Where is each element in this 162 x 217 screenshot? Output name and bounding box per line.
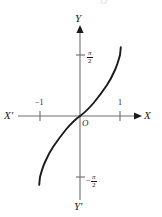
arcsin-graph-figure: O X X′ Y Y′ O −1 1 π 2 − π 2 bbox=[0, 0, 162, 217]
partial-glyph-top: O bbox=[100, 0, 107, 6]
y-negative-axis-label: Y′ bbox=[74, 201, 83, 212]
neg-half-pi-group: − π 2 bbox=[86, 174, 97, 189]
half-pi-denominator: 2 bbox=[87, 58, 93, 65]
x-axis-arrow-icon bbox=[134, 112, 142, 119]
y-axis-arrow-icon bbox=[76, 25, 83, 33]
x-tick-label-neg-one: −1 bbox=[35, 99, 44, 107]
x-axis-label: X bbox=[144, 110, 151, 121]
x-negative-axis-label: X′ bbox=[4, 110, 13, 121]
y-axis-label: Y bbox=[75, 13, 81, 24]
half-pi-fraction: π 2 bbox=[87, 50, 93, 65]
y-tick-label-pos-half-pi: π 2 bbox=[87, 48, 93, 65]
neg-half-pi-denominator: 2 bbox=[91, 182, 97, 189]
neg-half-pi-minus-sign: − bbox=[86, 177, 91, 185]
coordinate-plot-svg bbox=[0, 0, 162, 217]
neg-half-pi-fraction: π 2 bbox=[91, 174, 97, 189]
origin-label: O bbox=[82, 119, 89, 128]
x-tick-label-pos-one: 1 bbox=[118, 99, 122, 107]
y-tick-label-neg-half-pi: − π 2 bbox=[86, 170, 97, 189]
